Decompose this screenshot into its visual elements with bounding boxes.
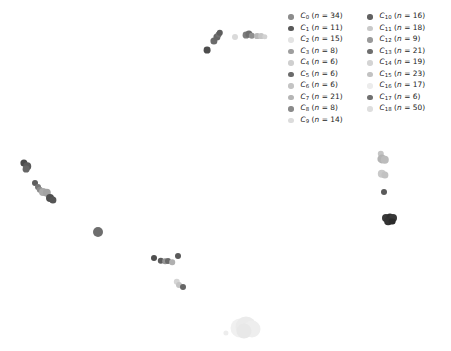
scatter-point [217,29,223,35]
legend-item-label: C10 (n = 16) [380,11,426,22]
scatter-point [93,227,103,237]
legend-item-C17[interactable]: C17 (n = 6) [367,92,448,104]
scatter-point [49,196,56,203]
legend-swatch-icon [367,49,373,55]
legend-item-label: C18 (n = 50) [380,103,426,114]
legend-swatch-icon [288,95,294,101]
legend-item-label: C9 (n = 14) [301,115,343,126]
scatter-point [223,330,228,335]
legend-item-C13[interactable]: C13 (n = 21) [367,46,448,58]
scatter-point [169,259,175,265]
scatter-point [175,253,181,259]
legend: C0 (n = 34)C1 (n = 11)C2 (n = 15)C3 (n =… [288,11,448,126]
legend-item-label: C17 (n = 6) [380,92,421,103]
legend-item-C16[interactable]: C16 (n = 17) [367,80,448,92]
legend-item-label: C11 (n = 18) [380,23,426,34]
legend-item-label: C3 (n = 8) [301,46,339,57]
legend-item-C9[interactable]: C9 (n = 14) [288,115,367,127]
legend-swatch-icon [288,60,294,66]
legend-item-C12[interactable]: C12 (n = 9) [367,34,448,46]
legend-swatch-icon [288,106,294,112]
legend-swatch-icon [367,95,373,101]
legend-item-label: C1 (n = 11) [301,23,343,34]
legend-swatch-icon [367,37,373,43]
legend-swatch-icon [367,106,373,112]
legend-item-C0[interactable]: C0 (n = 34) [288,11,367,23]
scatter-point [23,166,30,173]
legend-item-label: C12 (n = 9) [380,34,421,45]
legend-swatch-icon [288,37,294,43]
legend-swatch-icon [288,83,294,89]
legend-item-label: C7 (n = 21) [301,92,343,103]
legend-swatch-icon [367,26,373,32]
scatter-point [180,284,186,290]
legend-swatch-icon [367,60,373,66]
scatter-point [381,171,388,178]
legend-item-C1[interactable]: C1 (n = 11) [288,23,367,35]
legend-swatch-icon [367,83,373,89]
legend-swatch-icon [288,14,294,20]
scatter-point [262,34,267,39]
scatter-point [381,156,389,164]
legend-item-C18[interactable]: C18 (n = 50) [367,103,448,115]
legend-swatch-icon [288,26,294,32]
legend-item-C2[interactable]: C2 (n = 15) [288,34,367,46]
scatter-point [232,34,238,40]
legend-item-label: C5 (n = 6) [301,69,339,80]
scatter-point [151,255,157,261]
legend-item-C5[interactable]: C5 (n = 6) [288,69,367,81]
legend-item-C10[interactable]: C10 (n = 16) [367,11,448,23]
scatter-point [237,324,252,339]
legend-item-label: C8 (n = 8) [301,103,339,114]
legend-swatch-icon [367,14,373,20]
legend-item-C15[interactable]: C15 (n = 23) [367,69,448,81]
legend-swatch-icon [367,72,373,78]
scatter-point [389,218,396,225]
legend-item-label: C13 (n = 21) [380,46,426,57]
legend-item-label: C15 (n = 23) [380,69,426,80]
legend-item-C6[interactable]: C6 (n = 6) [288,80,367,92]
legend-swatch-icon [288,72,294,78]
legend-item-label: C0 (n = 34) [301,11,343,22]
legend-item-C4[interactable]: C4 (n = 6) [288,57,367,69]
legend-item-C11[interactable]: C11 (n = 18) [367,23,448,35]
legend-item-C8[interactable]: C8 (n = 8) [288,103,367,115]
legend-item-label: C16 (n = 17) [380,80,426,91]
legend-swatch-icon [288,118,294,124]
legend-item-label: C2 (n = 15) [301,34,343,45]
legend-swatch-icon [288,49,294,55]
scatter-plot-figure: C0 (n = 34)C1 (n = 11)C2 (n = 15)C3 (n =… [0,0,451,351]
legend-column-right: C10 (n = 16)C11 (n = 18)C12 (n = 9)C13 (… [367,11,448,126]
scatter-point [381,189,387,195]
legend-item-C3[interactable]: C3 (n = 8) [288,46,367,58]
legend-item-label: C14 (n = 19) [380,57,426,68]
scatter-point [204,47,211,54]
legend-column-left: C0 (n = 34)C1 (n = 11)C2 (n = 15)C3 (n =… [288,11,367,126]
legend-item-label: C4 (n = 6) [301,57,339,68]
legend-item-C14[interactable]: C14 (n = 19) [367,57,448,69]
legend-item-label: C6 (n = 6) [301,80,339,91]
legend-item-C7[interactable]: C7 (n = 21) [288,92,367,104]
